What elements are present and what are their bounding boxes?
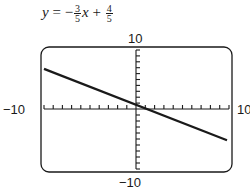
graph-plot [0,0,250,193]
axes [44,50,229,169]
